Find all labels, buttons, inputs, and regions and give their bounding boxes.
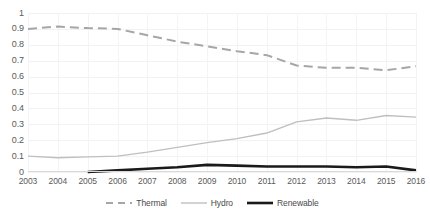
y-tick-label: 0.1 [0, 152, 24, 161]
y-tick-label: 0.3 [0, 120, 24, 129]
x-tick-label: 2005 [73, 176, 103, 186]
y-tick-label: 0.4 [0, 104, 24, 113]
x-tick-label: 2006 [103, 176, 133, 186]
x-tick-label: 2007 [132, 176, 162, 186]
x-axis: 2003200420052006200720082009201020112012… [28, 176, 417, 188]
y-tick-label: 0.8 [0, 40, 24, 49]
series-line-thermal [28, 27, 416, 71]
y-tick-label: 0.2 [0, 136, 24, 145]
legend-swatch-renewable-icon [247, 198, 273, 208]
y-tick-label: 1 [0, 9, 24, 18]
legend-swatch-thermal-icon [106, 198, 132, 208]
series-layer [28, 13, 417, 172]
plot-area [28, 13, 417, 172]
chart-legend: ThermalHydroRenewable [0, 196, 425, 210]
series-line-hydro [28, 116, 416, 158]
y-tick-label: 0.6 [0, 72, 24, 81]
x-tick-label: 2008 [162, 176, 192, 186]
y-tick-label: 0.9 [0, 24, 24, 33]
gridline-horizontal [28, 172, 417, 173]
legend-item-hydro[interactable]: Hydro [181, 198, 233, 208]
legend-label: Renewable [277, 198, 319, 208]
legend-item-thermal[interactable]: Thermal [106, 198, 166, 208]
x-tick-label: 2012 [282, 176, 312, 186]
legend-swatch-hydro-icon [181, 198, 207, 208]
x-tick-label: 2003 [13, 176, 43, 186]
y-tick-label: 0.5 [0, 88, 24, 97]
x-tick-label: 2010 [222, 176, 252, 186]
x-tick-label: 2015 [371, 176, 401, 186]
x-axis-line [28, 171, 417, 172]
x-tick-label: 2004 [43, 176, 73, 186]
y-tick-label: 0.7 [0, 56, 24, 65]
x-tick-label: 2009 [192, 176, 222, 186]
legend-label: Thermal [136, 198, 166, 208]
x-tick-label: 2013 [311, 176, 341, 186]
legend-label: Hydro [211, 198, 233, 208]
x-tick-label: 2011 [252, 176, 282, 186]
legend-item-renewable[interactable]: Renewable [247, 198, 319, 208]
x-tick-label: 2016 [401, 176, 430, 186]
x-tick-label: 2014 [341, 176, 371, 186]
